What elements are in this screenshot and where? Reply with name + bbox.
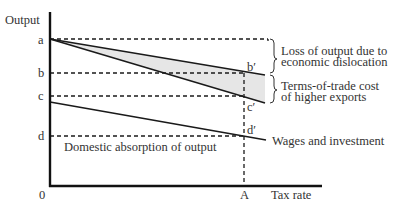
- level-b-label: b: [38, 67, 44, 79]
- point-c-prime-label: c′: [247, 101, 255, 113]
- level-a-label: a: [38, 34, 44, 46]
- origin-label: 0: [39, 189, 45, 201]
- level-d-label: d: [38, 130, 44, 142]
- diagram-canvas: [0, 0, 401, 214]
- wages-annotation: Wages and investment: [272, 135, 384, 147]
- point-d-prime-label: d′: [247, 124, 256, 136]
- x-marker-A-label: A: [240, 189, 249, 201]
- brace-loss: [270, 39, 277, 73]
- wages-line: [50, 102, 266, 140]
- domestic-absorption-annotation: Domestic absorption of output: [64, 141, 216, 153]
- level-c-label: c: [38, 90, 44, 102]
- x-axis-label: Tax rate: [271, 189, 311, 201]
- loss-annotation-line2: economic dislocation: [281, 56, 388, 68]
- brace-tot: [270, 75, 277, 103]
- point-b-prime-label: b′: [247, 61, 256, 73]
- y-axis-label: Output: [5, 14, 40, 26]
- tot-annotation-line2: of higher exports: [281, 91, 366, 103]
